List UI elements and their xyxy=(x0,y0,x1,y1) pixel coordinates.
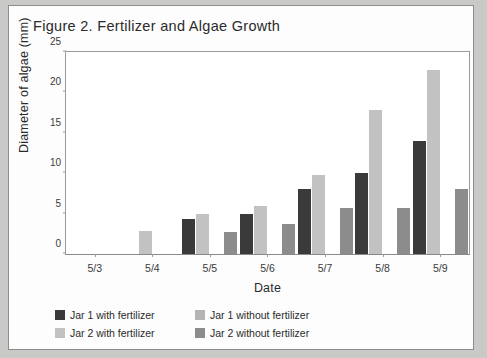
bar xyxy=(340,208,353,254)
x-axis-title: Date xyxy=(65,281,470,295)
x-tick-mark xyxy=(152,254,153,257)
bar xyxy=(182,219,195,254)
x-tick-label: 5/7 xyxy=(318,262,333,274)
x-tick-mark xyxy=(95,254,96,257)
y-tick-label: 0 xyxy=(55,238,61,249)
bar xyxy=(196,214,209,254)
bar xyxy=(427,70,440,254)
legend-entry: Jar 2 without fertilizer xyxy=(195,324,309,342)
bar xyxy=(240,214,253,254)
y-tick-label: 10 xyxy=(50,157,61,168)
x-tick-mark xyxy=(383,254,384,257)
legend-label: Jar 1 with fertilizer xyxy=(70,309,155,321)
bar xyxy=(254,206,267,254)
x-tick-label: 5/9 xyxy=(433,262,448,274)
chart-legend: Jar 1 with fertilizerJar 1 without ferti… xyxy=(55,306,309,342)
legend-swatch-icon xyxy=(55,310,65,320)
legend-label: Jar 2 with fertilizer xyxy=(70,327,155,339)
y-tick-label: 25 xyxy=(50,36,61,47)
bar-group: 5/4 xyxy=(124,52,182,254)
x-tick-label: 5/5 xyxy=(203,262,218,274)
y-tick-label: 5 xyxy=(55,197,61,208)
x-tick-label: 5/8 xyxy=(375,262,390,274)
bar xyxy=(369,110,382,254)
bar xyxy=(397,208,410,254)
x-tick-label: 5/6 xyxy=(260,262,275,274)
bar xyxy=(298,189,311,254)
legend-swatch-icon xyxy=(195,328,205,338)
bar-group: 5/9 xyxy=(411,52,469,254)
x-tick-mark xyxy=(325,254,326,257)
bar-group: 5/3 xyxy=(66,52,124,254)
chart-title: Figure 2. Fertilizer and Algae Growth xyxy=(33,18,280,34)
y-tick-label: 15 xyxy=(50,116,61,127)
chart-card: Figure 2. Fertilizer and Algae Growth Di… xyxy=(8,5,474,350)
x-tick-label: 5/4 xyxy=(145,262,160,274)
plot-area: 05101520255/35/45/55/65/75/85/9 xyxy=(65,51,470,255)
y-tick-label: 20 xyxy=(50,76,61,87)
x-tick-mark xyxy=(267,254,268,257)
bar xyxy=(139,231,152,254)
bar-group: 5/5 xyxy=(181,52,239,254)
legend-swatch-icon xyxy=(195,310,205,320)
bar xyxy=(224,232,237,254)
legend-entry: Jar 1 without fertilizer xyxy=(195,306,309,324)
bar-group: 5/8 xyxy=(354,52,412,254)
legend-swatch-icon xyxy=(55,328,65,338)
bar xyxy=(312,175,325,254)
x-tick-label: 5/3 xyxy=(87,262,102,274)
bar xyxy=(355,173,368,254)
x-tick-mark xyxy=(440,254,441,257)
x-tick-mark xyxy=(210,254,211,257)
bar xyxy=(455,189,468,254)
y-axis-title: Diameter of algae (mm) xyxy=(17,17,31,153)
bar-group: 5/6 xyxy=(239,52,297,254)
legend-label: Jar 2 without fertilizer xyxy=(210,327,309,339)
screenshot-root: Figure 2. Fertilizer and Algae Growth Di… xyxy=(0,0,487,358)
bar-group: 5/7 xyxy=(296,52,354,254)
legend-entry: Jar 1 with fertilizer xyxy=(55,306,185,324)
legend-label: Jar 1 without fertilizer xyxy=(210,309,309,321)
legend-entry: Jar 2 with fertilizer xyxy=(55,324,185,342)
bar xyxy=(413,141,426,254)
bar xyxy=(282,224,295,254)
